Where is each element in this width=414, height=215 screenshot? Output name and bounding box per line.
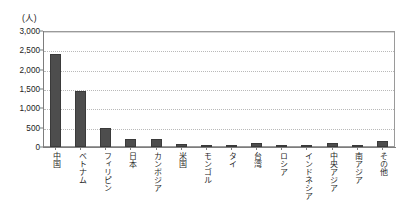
bar-slot	[269, 31, 294, 147]
x-tick-mark	[156, 147, 157, 150]
x-tick-mark	[181, 147, 182, 150]
x-tick-mark	[105, 147, 106, 150]
bar	[75, 91, 86, 147]
x-label-slot: 中央アジア	[320, 152, 345, 214]
x-tick-slot	[320, 147, 345, 151]
x-axis-label-7: タイ	[227, 152, 236, 168]
y-tick-label-1500: 1,500	[0, 85, 40, 94]
x-axis-tick-marks	[43, 147, 395, 151]
bar	[100, 128, 111, 147]
x-label-slot: 中国	[43, 152, 68, 214]
bar-slot	[43, 31, 68, 147]
x-axis-label-3: 日本	[127, 152, 136, 168]
x-label-slot: フィリピン	[93, 152, 118, 214]
x-axis-label-5: 米国	[177, 152, 186, 168]
x-tick-slot	[370, 147, 395, 151]
x-tick-mark	[130, 147, 131, 150]
x-axis-label-8: 台湾	[252, 152, 261, 168]
x-label-slot: ベトナム	[68, 152, 93, 214]
x-label-slot: ロシア	[269, 152, 294, 214]
bar-slot	[93, 31, 118, 147]
x-tick-mark	[357, 147, 358, 150]
x-tick-slot	[93, 147, 118, 151]
y-tick-label-0: 0	[0, 143, 40, 152]
bar-slot	[294, 31, 319, 147]
bar-series	[43, 31, 395, 147]
bar-slot	[370, 31, 395, 147]
x-axis-label-0: 中国	[51, 152, 60, 168]
bar-slot	[244, 31, 269, 147]
bar	[151, 139, 162, 147]
x-tick-mark	[382, 147, 383, 150]
bar-slot	[219, 31, 244, 147]
bar-slot	[118, 31, 143, 147]
x-tick-slot	[43, 147, 68, 151]
x-tick-mark	[231, 147, 232, 150]
x-tick-slot	[169, 147, 194, 151]
x-axis-category-labels: 中国ベトナムフィリピン日本カンボジア米国モンゴルタイ台湾ロシアインドネシア中央ア…	[43, 152, 395, 214]
x-axis-label-9: ロシア	[278, 152, 287, 176]
x-tick-slot	[294, 147, 319, 151]
x-axis-label-6: モンゴル	[202, 152, 211, 184]
x-tick-slot	[219, 147, 244, 151]
bar	[125, 139, 136, 147]
x-tick-slot	[118, 147, 143, 151]
x-tick-mark	[332, 147, 333, 150]
x-axis-label-2: フィリピン	[102, 152, 111, 192]
x-tick-mark	[206, 147, 207, 150]
x-tick-slot	[269, 147, 294, 151]
x-tick-mark	[281, 147, 282, 150]
x-tick-slot	[68, 147, 93, 151]
x-axis-label-12: 南アジア	[353, 152, 362, 184]
x-label-slot: インドネシア	[294, 152, 319, 214]
y-axis-tick-labels: 05001,0001,5002,0002,5003,000	[0, 31, 40, 147]
x-label-slot: 米国	[169, 152, 194, 214]
x-tick-slot	[244, 147, 269, 151]
y-tick-label-3000: 3,000	[0, 27, 40, 36]
bar-slot	[169, 31, 194, 147]
x-axis-label-11: 中央アジア	[328, 152, 337, 192]
y-tick-label-2500: 2,500	[0, 46, 40, 55]
x-axis-label-1: ベトナム	[76, 152, 85, 184]
x-tick-slot	[194, 147, 219, 151]
y-tick-label-2000: 2,000	[0, 65, 40, 74]
bar-slot	[345, 31, 370, 147]
x-axis-label-4: カンボジア	[152, 152, 161, 192]
x-tick-slot	[144, 147, 169, 151]
x-label-slot: モンゴル	[194, 152, 219, 214]
x-tick-mark	[80, 147, 81, 150]
x-label-slot: タイ	[219, 152, 244, 214]
x-tick-mark	[55, 147, 56, 150]
x-axis-label-10: インドネシア	[303, 152, 312, 200]
bar-slot	[320, 31, 345, 147]
x-tick-mark	[306, 147, 307, 150]
bar	[50, 54, 61, 147]
bar-slot	[144, 31, 169, 147]
bar-chart: (人) 05001,0001,5002,0002,5003,000 中国ベトナム…	[0, 0, 414, 215]
y-axis-unit-label: (人)	[22, 11, 37, 23]
bar-slot	[194, 31, 219, 147]
y-tick-label-1000: 1,000	[0, 104, 40, 113]
y-tick-label-500: 500	[0, 123, 40, 132]
x-label-slot: その他	[370, 152, 395, 214]
x-label-slot: 台湾	[244, 152, 269, 214]
x-tick-mark	[256, 147, 257, 150]
x-label-slot: 日本	[118, 152, 143, 214]
x-axis-label-13: その他	[378, 152, 387, 176]
x-tick-slot	[345, 147, 370, 151]
bar-slot	[68, 31, 93, 147]
x-label-slot: 南アジア	[345, 152, 370, 214]
x-label-slot: カンボジア	[144, 152, 169, 214]
